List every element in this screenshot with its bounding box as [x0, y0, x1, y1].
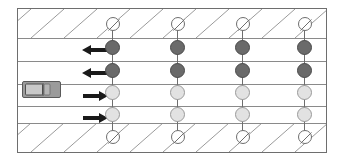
detector-node-dark-1[interactable]: [235, 40, 250, 55]
detector-node-slashed-bottom[interactable]: [236, 130, 250, 144]
detector-column-3: [242, 9, 244, 152]
car-icon[interactable]: [22, 81, 61, 98]
detector-node-light-1[interactable]: [235, 85, 250, 100]
detector-column-1: [112, 9, 114, 152]
diagram-canvas: [0, 0, 344, 162]
detector-node-light-1[interactable]: [170, 85, 185, 100]
lane-arrow-left-1: [82, 43, 108, 57]
detector-node-dark-1[interactable]: [170, 40, 185, 55]
detector-node-light-1[interactable]: [105, 85, 120, 100]
detector-node-dark-2[interactable]: [170, 63, 185, 78]
lane-divider-4: [18, 106, 326, 107]
detector-node-dark-2[interactable]: [235, 63, 250, 78]
detector-node-light-2[interactable]: [235, 107, 250, 122]
detector-node-slashed-top[interactable]: [298, 17, 312, 31]
detector-node-slashed-top[interactable]: [171, 17, 185, 31]
lane-divider-1: [18, 38, 326, 39]
lane-arrow-left-2: [82, 66, 108, 80]
lane-divider-5: [18, 123, 326, 124]
detector-node-light-2[interactable]: [297, 107, 312, 122]
detector-node-slashed-bottom[interactable]: [106, 130, 120, 144]
road-area: [17, 8, 327, 153]
detector-node-slashed-top[interactable]: [106, 17, 120, 31]
detector-node-slashed-bottom[interactable]: [298, 130, 312, 144]
detector-node-slashed-top[interactable]: [236, 17, 250, 31]
detector-column-4: [304, 9, 306, 152]
detector-node-light-1[interactable]: [297, 85, 312, 100]
detector-node-dark-2[interactable]: [105, 63, 120, 78]
detector-node-dark-2[interactable]: [297, 63, 312, 78]
detector-node-dark-1[interactable]: [105, 40, 120, 55]
detector-node-dark-1[interactable]: [297, 40, 312, 55]
detector-node-light-2[interactable]: [170, 107, 185, 122]
lane-divider-2: [18, 61, 326, 62]
detector-column-2: [177, 9, 179, 152]
detector-node-slashed-bottom[interactable]: [171, 130, 185, 144]
lane-divider-3: [18, 84, 326, 85]
detector-node-light-2[interactable]: [105, 107, 120, 122]
